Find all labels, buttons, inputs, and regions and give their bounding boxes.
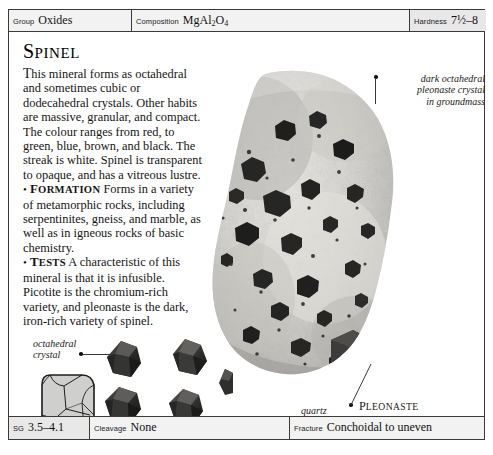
footer-property-bar: SG 3.5–4.1 Cleavage None Fracture Concho… (9, 416, 484, 439)
header-cell-hardness: Hardness 7½–8 (409, 10, 486, 31)
crystal-b (173, 339, 207, 375)
composition-label: Composition (136, 12, 179, 32)
cubic-crystal-diagram (36, 369, 100, 418)
sg-label: SG (13, 419, 24, 439)
footer-cell-fracture: Fracture Conchoidal to uneven (289, 417, 486, 439)
hardness-value: 7½–8 (451, 10, 478, 30)
tests-bullet: • (23, 256, 27, 268)
cleavage-value: None (131, 417, 157, 437)
hardness-label: Hardness (414, 12, 447, 32)
spinel-specimen-photo (205, 68, 401, 398)
header-property-bar: Group Oxides Composition MgAl2O4 Hardnes… (9, 10, 484, 32)
caption-pleonaste: PLEONASTE (359, 396, 419, 414)
cleavage-label: Cleavage (94, 419, 127, 439)
crystal-d (169, 389, 203, 418)
ruby-spinel-crystal-cluster (103, 337, 233, 418)
tests-paragraph: • TESTS A characteristic of this mineral… (23, 255, 205, 328)
crystal-e (219, 369, 233, 395)
crystal-c (105, 387, 141, 418)
dark-crystal-leader-line (375, 78, 376, 104)
article-text-column: SPINEL This mineral forms as octahedral … (23, 40, 205, 328)
formation-bullet: • (23, 183, 27, 195)
mineral-reference-page: Group Oxides Composition MgAl2O4 Hardnes… (0, 0, 493, 455)
sg-value: 3.5–4.1 (28, 417, 64, 437)
footer-cell-cleavage: Cleavage None (89, 417, 289, 439)
formation-heading: FORMATION (30, 182, 100, 196)
footer-cell-sg: SG 3.5–4.1 (9, 417, 89, 439)
group-value: Oxides (38, 10, 72, 30)
fracture-value: Conchoidal to uneven (327, 417, 432, 437)
tests-heading: TESTS (30, 255, 66, 269)
content-area: dark octahedral pleonaste crystal in gro… (9, 32, 486, 418)
octahedral-leader-dot (79, 352, 83, 356)
fracture-label: Fracture (294, 419, 323, 439)
annotation-dark-octahedral-crystal: dark octahedral pleonaste crystal in gro… (381, 73, 485, 107)
header-cell-composition: Composition MgAl2O4 (131, 10, 409, 31)
spinel-card: Group Oxides Composition MgAl2O4 Hardnes… (8, 9, 485, 440)
intro-paragraph: This mineral forms as octahedral and som… (23, 67, 205, 182)
page-title: SPINEL (23, 40, 205, 64)
formation-paragraph: • FORMATION Forms in a variety of metamo… (23, 182, 205, 255)
crystal-a (107, 341, 141, 377)
group-label: Group (13, 12, 34, 32)
header-cell-group: Group Oxides (9, 10, 131, 31)
composition-value: MgAl2O4 (183, 10, 228, 32)
